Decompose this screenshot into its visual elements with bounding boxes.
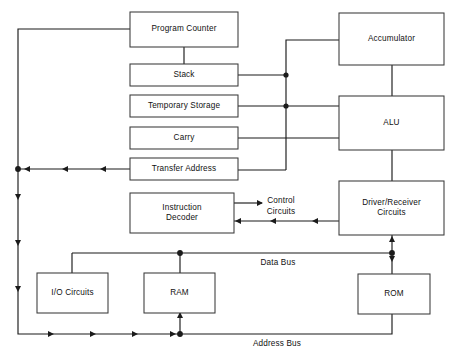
junction-data-bus-rom [389, 250, 395, 256]
block-ram[interactable] [144, 273, 215, 313]
arrowhead-left-down-2 [15, 240, 21, 246]
arrowhead-left-bus-2 [62, 166, 68, 172]
arrowhead-driver-up [389, 236, 395, 242]
arrowhead-address-bus-1 [48, 331, 54, 337]
label-control-circuits: Control Circuits [255, 196, 307, 217]
junction-trunk-stack [283, 72, 288, 77]
arrowhead-left-down-3 [15, 286, 21, 292]
arrowhead-address-bus-2 [90, 331, 96, 337]
arrowhead-left-down-1 [15, 194, 21, 200]
arrowhead-left-bus-1 [24, 166, 30, 172]
block-transfer-address[interactable] [130, 158, 238, 180]
block-carry[interactable] [130, 127, 238, 149]
diagram-wiring [0, 0, 456, 363]
junction-data-bus-ram [177, 250, 183, 256]
arrowhead-decoder-left-2 [270, 218, 276, 224]
block-temporary-storage[interactable] [130, 95, 238, 117]
block-driver-receiver[interactable] [339, 181, 444, 235]
block-alu[interactable] [339, 96, 444, 150]
label-data-bus: Data Bus [248, 258, 308, 269]
arrowhead-address-bus-3 [132, 331, 138, 337]
wire-pc-to-left-bus [18, 29, 130, 169]
junction-address-ram [177, 331, 183, 337]
arrowhead-decoder-left-3 [312, 218, 318, 224]
block-instruction-decoder[interactable] [130, 193, 234, 233]
block-rom[interactable] [358, 274, 430, 314]
label-address-bus: Address Bus [240, 339, 314, 350]
arrowhead-left-bus-3 [100, 166, 106, 172]
arrowhead-decoder-left-1 [235, 218, 241, 224]
wire-accumulator-trunk [286, 40, 339, 170]
arrowhead-rom-down [389, 256, 395, 262]
block-io-circuits[interactable] [37, 273, 108, 313]
block-accumulator[interactable] [339, 13, 444, 65]
block-diagram-canvas: Program Counter Stack Temporary Storage … [0, 0, 456, 363]
block-program-counter[interactable] [130, 12, 238, 47]
junction-trunk-temp [283, 103, 288, 108]
block-stack[interactable] [130, 64, 238, 86]
arrowhead-address-bus-4 [170, 331, 176, 337]
junction-left-bus-top [15, 166, 21, 172]
